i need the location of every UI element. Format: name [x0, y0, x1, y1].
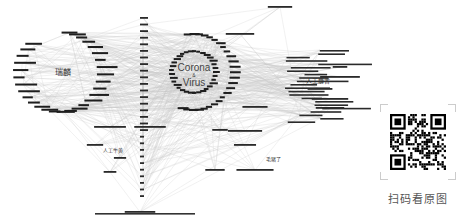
- node-label-bar: [93, 88, 106, 90]
- node-label-bar: [140, 24, 148, 26]
- node-label-bar: [333, 66, 348, 68]
- cluster-label-lower-mid: 毛猪了: [266, 155, 281, 162]
- node-label-bar: [220, 46, 226, 48]
- node-label-bar: [189, 109, 199, 111]
- node-label-bar: [140, 63, 148, 65]
- node-label-bar: [72, 108, 88, 110]
- node-label-bar: [140, 96, 148, 98]
- center-label-line2: Virus: [174, 77, 214, 88]
- node-label-bar: [207, 57, 214, 59]
- node-label-bar: [97, 66, 118, 68]
- node-label-bar: [69, 33, 86, 35]
- node-label-bar: [140, 189, 144, 191]
- node-label-bar: [268, 6, 292, 8]
- node-label-bar: [287, 70, 318, 72]
- node-label-bar: [140, 156, 144, 158]
- node-label-bar: [140, 83, 148, 85]
- node-label-bar: [201, 34, 209, 36]
- node-label-bar: [177, 55, 184, 57]
- node-label-bar: [224, 50, 231, 52]
- qr-corner-br: [448, 172, 456, 180]
- node-label-bar: [17, 55, 29, 57]
- node-label-bar: [140, 50, 148, 52]
- node-label-bar: [288, 121, 315, 123]
- node-label-bar: [288, 91, 324, 93]
- node-label-bar: [322, 108, 371, 110]
- node-label-bar: [211, 39, 217, 41]
- node-label-bar: [174, 58, 181, 60]
- qr-corner-tl: [380, 104, 388, 112]
- node-label-bar: [311, 111, 342, 113]
- qr-code-icon: [390, 114, 446, 170]
- node-label-bar: [180, 53, 184, 55]
- node-label-bar: [226, 55, 236, 57]
- node-label-bar: [14, 62, 36, 64]
- node-label-bar: [140, 30, 148, 32]
- node-label-bar: [78, 104, 89, 106]
- node-label-bar: [41, 109, 58, 111]
- node-label-bar: [15, 84, 37, 86]
- node-label-bar: [212, 129, 228, 131]
- node-label-bar: [134, 126, 166, 128]
- node-label-bar: [315, 104, 349, 106]
- node-label-bar: [140, 90, 148, 92]
- qr-corner-tr: [448, 104, 456, 112]
- node-label-bar: [299, 115, 322, 117]
- node-label-bar: [34, 106, 50, 108]
- node-label-bar: [291, 67, 331, 69]
- node-label-bar: [140, 162, 144, 164]
- node-label-bar: [140, 109, 148, 111]
- node-label-bar: [95, 213, 195, 215]
- node-label-bar: [200, 52, 206, 54]
- node-label-bar: [18, 90, 40, 92]
- node-label-bar: [28, 102, 40, 104]
- node-label-bar: [315, 101, 353, 103]
- node-label-bar: [88, 46, 103, 48]
- cluster-rings: [13, 6, 372, 215]
- node-label-bar: [125, 211, 155, 213]
- node-label-bar: [140, 57, 148, 59]
- node-label-bar: [320, 118, 343, 120]
- node-label-bar: [140, 17, 148, 19]
- node-label-bar: [204, 88, 209, 90]
- node-label-bar: [140, 116, 148, 118]
- node-label-bar: [140, 37, 148, 39]
- node-label-bar: [95, 59, 106, 61]
- node-label-bar: [140, 103, 148, 105]
- node-label-bar: [242, 106, 267, 108]
- node-label-bar: [206, 106, 212, 108]
- node-label-bar: [228, 130, 262, 132]
- qr-corner-bl: [380, 172, 388, 180]
- node-label-bar: [62, 32, 78, 34]
- node-label-bar: [206, 36, 212, 38]
- node-label-bar: [114, 157, 126, 159]
- node-label-bar: [140, 43, 148, 45]
- node-label-bar: [211, 103, 218, 105]
- node-label-bar: [76, 36, 87, 38]
- node-label-bar: [289, 94, 328, 96]
- node-label-bar: [49, 110, 61, 112]
- node-label-bar: [13, 76, 24, 78]
- node-label-bar: [178, 107, 189, 109]
- node-label-bar: [140, 142, 144, 144]
- edge-layer: [21, 7, 340, 212]
- node-label-bar: [236, 169, 273, 171]
- node-label-bar: [140, 129, 148, 131]
- node-label-bar: [140, 136, 144, 138]
- node-label-bar: [97, 73, 114, 75]
- node-label-bar: [196, 51, 200, 53]
- node-label-bar: [92, 52, 108, 54]
- node-label-bar: [196, 91, 201, 93]
- node-label-bar: [234, 144, 256, 146]
- node-label-bar: [140, 70, 148, 72]
- node-label-bar: [285, 87, 330, 89]
- node-label-bar: [87, 144, 103, 146]
- node-label-bar: [94, 126, 126, 128]
- node-label-bar: [140, 182, 144, 184]
- qr-code-panel[interactable]: [380, 104, 456, 180]
- node-label-bar: [230, 71, 241, 73]
- node-label-bar: [302, 98, 322, 100]
- node-label-bar: [13, 69, 28, 71]
- node-label-bar: [180, 89, 185, 91]
- node-label-bar: [220, 96, 225, 98]
